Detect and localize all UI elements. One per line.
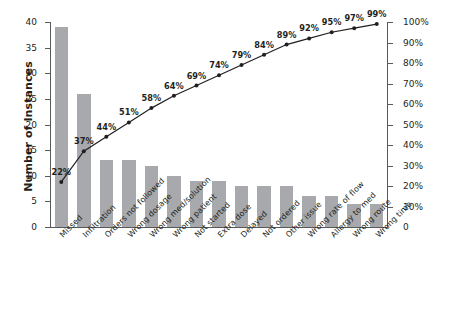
cumulative-point [172,94,176,98]
bar [55,27,69,227]
cumulative-label: 95% [322,17,342,27]
y-axis-left-tick: 35 [45,48,50,49]
y-axis-left-tick: 25 [45,99,50,100]
cumulative-label: 89% [277,30,297,40]
y-axis-right-tick: 30% [388,166,393,167]
y-axis-right-tick: 60% [388,104,393,105]
y-axis-left-tick-label: 0 [31,222,37,232]
y-axis-left-tick-label: 20 [26,120,37,130]
cumulative-point [240,63,244,67]
y-axis-right-tick: 40% [388,145,393,146]
cumulative-label: 69% [187,71,207,81]
cumulative-label: 51% [119,107,139,117]
y-axis-right-tick-label: 60% [403,99,423,109]
y-axis-left-tick-label: 35 [26,43,37,53]
bar [77,94,91,227]
cumulative-label: 79% [232,50,252,60]
y-axis-left-tick: 5 [45,201,50,202]
cumulative-label: 44% [97,122,117,132]
cumulative-point [285,43,289,47]
cumulative-point [104,135,108,139]
y-axis-left-line [50,22,51,228]
y-axis-left-tick: 30 [45,73,50,74]
plot-area: 0510152025303540 010%20%30%40%50%60%70%8… [50,22,388,228]
y-axis-left-tick-label: 5 [31,196,37,206]
cumulative-line-path [61,24,376,182]
cumulative-label: 92% [299,23,319,33]
cumulative-label: 97% [344,13,364,23]
y-axis-right-tick-label: 20% [403,181,423,191]
cumulative-point [194,84,198,88]
y-axis-right-tick-label: 30% [403,161,423,171]
cumulative-point [262,53,266,57]
cumulative-point [149,106,153,110]
y-axis-left-tick-label: 15 [26,145,37,155]
cumulative-label: 22% [51,167,71,177]
pareto-chart: Number of Instances 0510152025303540 010… [0,0,451,323]
y-axis-left-tick-label: 40 [26,17,37,27]
y-axis-right-tick-label: 50% [403,120,423,130]
cumulative-point [375,22,379,26]
y-axis-right-tick: 80% [388,63,393,64]
cumulative-label: 64% [164,81,184,91]
cumulative-label: 84% [254,40,274,50]
y-axis-right-tick-label: 0 [403,222,409,232]
y-axis-right-tick-label: 90% [403,38,423,48]
cumulative-point [307,36,311,40]
y-axis-left-tick-label: 25 [26,94,37,104]
y-axis-right-tick: 20% [388,186,393,187]
y-axis-right-tick-label: 70% [403,79,423,89]
y-axis-left-tick-label: 30 [26,68,37,78]
y-axis-right-tick: 100% [388,22,393,23]
y-axis-left-tick: 15 [45,150,50,151]
y-axis-left-tick: 20 [45,125,50,126]
cumulative-point [217,73,221,77]
y-axis-left-tick: 40 [45,22,50,23]
cumulative-label: 58% [142,93,162,103]
y-axis-right-tick: 50% [388,125,393,126]
cumulative-label: 74% [209,60,229,70]
y-axis-right-tick: 90% [388,43,393,44]
cumulative-label: 99% [367,9,387,19]
y-axis-right-tick-label: 100% [403,17,429,27]
y-axis-left-tick: 0 [45,227,50,228]
cumulative-label: 37% [74,136,94,146]
y-axis-right-tick-label: 40% [403,140,423,150]
cumulative-point [352,26,356,30]
cumulative-point [127,120,131,124]
y-axis-right-tick: 70% [388,84,393,85]
y-axis-left-tick-label: 10 [26,171,37,181]
y-axis-right-tick-label: 80% [403,58,423,68]
cumulative-point [330,30,334,34]
y-axis-left-tick: 10 [45,176,50,177]
